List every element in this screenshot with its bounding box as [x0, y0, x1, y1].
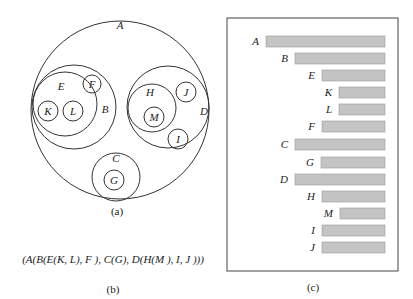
- circle-d: [127, 66, 209, 148]
- bar-e: [322, 70, 385, 81]
- bar-label-m: M: [323, 207, 334, 219]
- circle-label-b: B: [102, 103, 109, 115]
- bar-d: [295, 174, 385, 185]
- bar-label-j: J: [310, 241, 316, 253]
- bar-m: [340, 208, 385, 219]
- bar-f: [322, 121, 385, 132]
- bar-label-c: C: [281, 138, 289, 150]
- circle-label-f: F: [88, 78, 96, 90]
- bar-l: [339, 104, 385, 115]
- bar-h: [322, 191, 385, 202]
- circle-e: [33, 72, 97, 136]
- circle-label-c: C: [112, 152, 120, 164]
- indented-bars: ABEKLFCGDHMIJ: [251, 35, 385, 253]
- bar-label-l: L: [325, 103, 332, 115]
- bar-label-i: I: [310, 224, 316, 236]
- bar-label-h: H: [306, 190, 316, 202]
- bar-b: [295, 53, 385, 64]
- caption-a: (a): [111, 205, 124, 218]
- bar-label-b: B: [281, 52, 288, 64]
- bar-c: [295, 139, 385, 150]
- bar-label-d: D: [279, 173, 288, 185]
- circle-label-m: M: [148, 111, 159, 123]
- figure: ABEFKLDHMJICG (a) (A(B(E(K, L), F ), C(G…: [0, 0, 413, 299]
- circle-label-j: J: [184, 86, 190, 98]
- circle-label-i: I: [175, 133, 181, 145]
- circle-label-k: K: [43, 105, 52, 117]
- bar-g: [321, 157, 385, 168]
- bar-label-e: E: [307, 69, 315, 81]
- caption-c: (c): [307, 281, 320, 294]
- nested-parenthesis-expression: (A(B(E(K, L), F ), C(G), D(H(M ), I, J )…: [22, 253, 204, 266]
- circle-label-a: A: [116, 19, 124, 31]
- caption-b: (b): [107, 283, 120, 296]
- circle-label-h: H: [145, 86, 155, 98]
- bar-label-f: F: [307, 120, 315, 132]
- circle-label-e: E: [57, 80, 65, 92]
- bar-label-a: A: [251, 35, 259, 47]
- bar-a: [266, 36, 385, 47]
- bar-k: [339, 87, 385, 98]
- bar-label-k: K: [324, 86, 333, 98]
- circle-label-g: G: [110, 174, 118, 186]
- bar-i: [322, 225, 385, 236]
- circle-label-d: D: [199, 105, 208, 117]
- bar-label-g: G: [306, 156, 314, 168]
- bar-j: [322, 242, 385, 253]
- circle-label-l: L: [69, 105, 76, 117]
- nested-circles-diagram: ABEFKLDHMJICG: [31, 19, 209, 201]
